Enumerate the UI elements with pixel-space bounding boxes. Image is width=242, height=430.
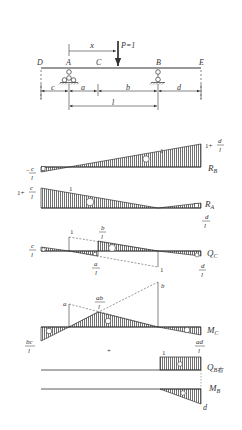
svg-text:a: a xyxy=(63,300,67,308)
svg-text:l: l xyxy=(219,146,221,154)
svg-text:a: a xyxy=(94,260,98,268)
support-a-icon xyxy=(59,70,79,85)
svg-text:l: l xyxy=(95,269,97,277)
dim-b-label: b xyxy=(126,83,130,92)
svg-text:1: 1 xyxy=(160,266,164,274)
svg-text:l: l xyxy=(31,193,33,201)
load-label: P=1 xyxy=(120,41,135,50)
plus-sign-icon xyxy=(178,362,183,367)
svg-text:1: 1 xyxy=(162,349,166,357)
influence-line-ra: 1 1+ c l RA d l xyxy=(17,184,215,230)
minus-sign-icon xyxy=(93,252,97,256)
minus-sign-icon xyxy=(181,391,186,396)
svg-text:l: l xyxy=(198,347,200,355)
influence-line-mb: MB d xyxy=(41,370,221,412)
minus-sign-icon xyxy=(195,204,199,208)
mb-label: MB xyxy=(208,383,221,394)
svg-text:1: 1 xyxy=(160,147,164,155)
dim-d-label: d xyxy=(177,83,182,92)
svg-text:1: 1 xyxy=(69,185,73,193)
svg-text:l: l xyxy=(28,347,30,355)
rb-label: RB xyxy=(207,163,218,174)
svg-text:c: c xyxy=(31,165,35,173)
point-d-label: D xyxy=(36,58,43,67)
svg-text:ad: ad xyxy=(196,338,204,346)
ra-label: RA xyxy=(204,199,215,210)
svg-text:−: − xyxy=(26,167,30,175)
support-b-icon xyxy=(150,70,165,85)
svg-text:l: l xyxy=(98,303,100,311)
beam-schematic: x P=1 D A C B E xyxy=(36,40,204,110)
svg-text:b: b xyxy=(101,224,105,232)
influence-line-qb-right: 1 QB右 xyxy=(41,349,224,373)
svg-text:1+: 1+ xyxy=(205,142,213,150)
x-label: x xyxy=(89,40,94,50)
plus-sign-icon xyxy=(109,245,116,252)
influence-line-rb: 1 1+ d l RB − c l xyxy=(26,137,224,182)
svg-text:d: d xyxy=(201,262,205,270)
svg-text:d: d xyxy=(218,137,222,145)
separator-mark: + xyxy=(107,347,111,355)
mc-label: MC xyxy=(206,325,220,336)
qc-label: QC xyxy=(207,248,219,259)
influence-line-qc: 1 1 b l a l c l QC d l xyxy=(29,224,219,279)
svg-text:d: d xyxy=(205,213,209,221)
plus-sign-icon xyxy=(42,248,46,252)
influence-line-diagram: x P=1 D A C B E xyxy=(0,0,242,430)
minus-sign-icon xyxy=(46,328,52,334)
svg-text:1: 1 xyxy=(70,228,74,236)
svg-text:b: b xyxy=(161,282,165,290)
svg-text:ab: ab xyxy=(96,294,104,302)
qb-right-label: QB右 xyxy=(207,362,224,373)
plus-sign-icon xyxy=(143,156,149,162)
svg-text:d: d xyxy=(203,403,208,412)
svg-text:l: l xyxy=(31,174,33,182)
svg-text:l: l xyxy=(201,271,203,279)
minus-sign-icon xyxy=(42,167,46,171)
svg-text:l: l xyxy=(31,251,33,259)
minus-sign-icon xyxy=(195,253,199,257)
svg-text:c: c xyxy=(31,242,35,250)
minus-sign-icon xyxy=(184,327,190,333)
point-b-label: B xyxy=(156,58,161,67)
svg-text:l: l xyxy=(204,222,206,230)
dim-a-label: a xyxy=(81,83,85,92)
plus-sign-icon xyxy=(105,318,111,324)
svg-text:1+: 1+ xyxy=(17,189,25,197)
point-a-label: A xyxy=(65,58,71,67)
dim-c-label: c xyxy=(51,83,55,92)
plus-sign-icon xyxy=(86,198,94,206)
svg-text:bc: bc xyxy=(26,338,34,346)
influence-line-mc: a b ab l bc l MC ad l xyxy=(25,282,220,355)
point-c-label: C xyxy=(96,58,102,67)
point-e-label: E xyxy=(198,58,204,67)
dim-l-label: l xyxy=(112,98,115,107)
svg-text:c: c xyxy=(30,184,34,192)
svg-text:l: l xyxy=(101,233,103,241)
